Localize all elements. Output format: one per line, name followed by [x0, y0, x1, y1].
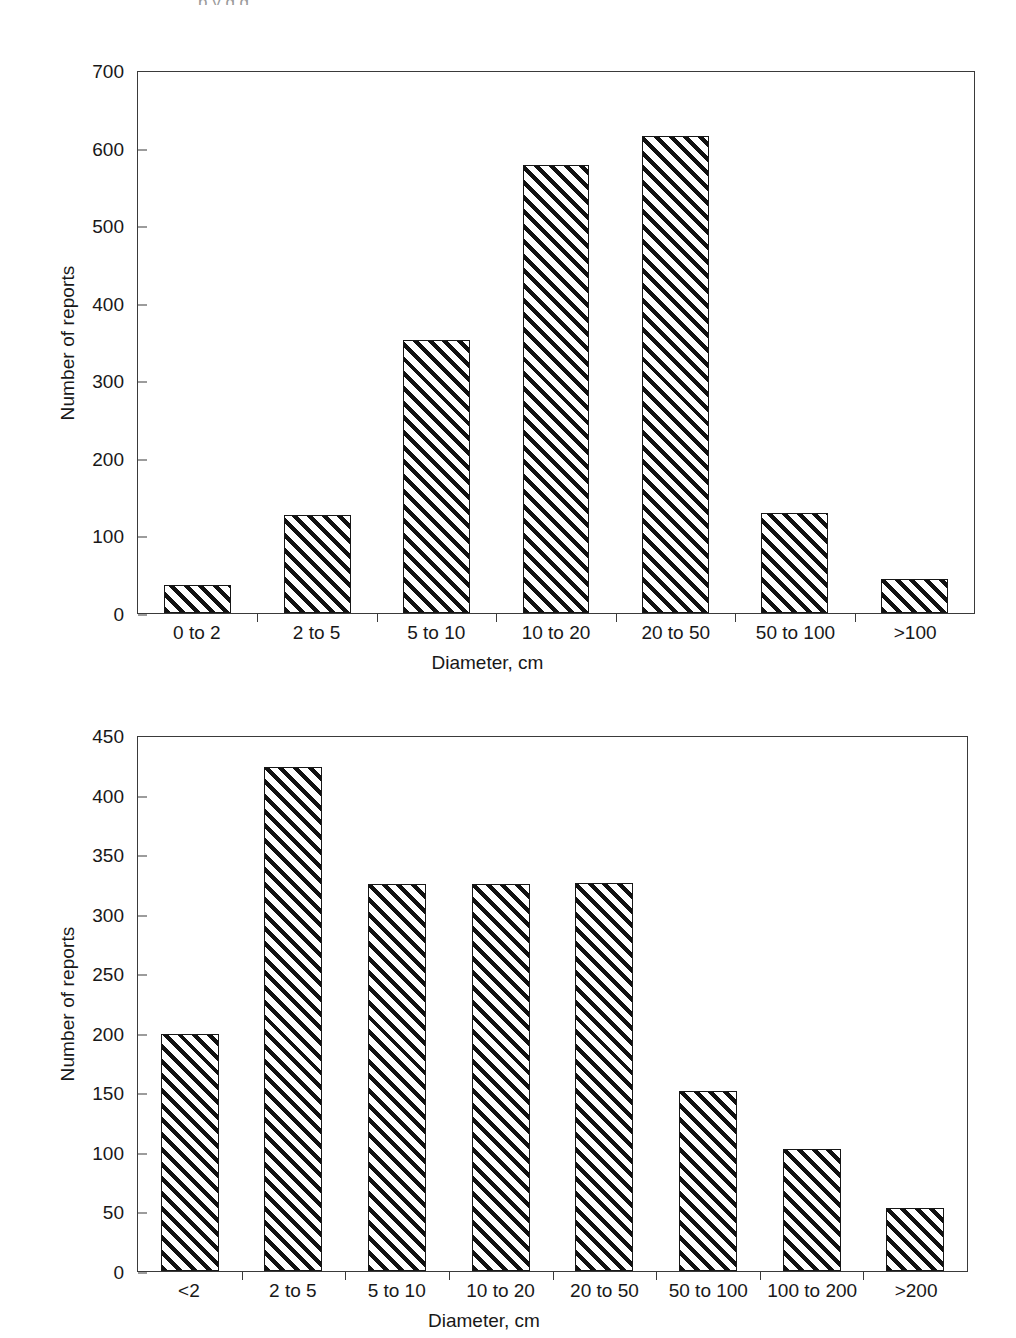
y-axis-tick-label: 50 [103, 1202, 138, 1224]
y-axis-tick-mark [138, 975, 147, 976]
bar-slot [553, 737, 657, 1271]
y-axis-tick-mark [138, 227, 147, 228]
bar-group-top [138, 72, 974, 613]
y-axis-tick-mark [138, 537, 147, 538]
y-axis-tick-label: 300 [92, 371, 138, 393]
bar [164, 585, 231, 613]
y-axis-tick-mark [138, 1153, 147, 1154]
plot-area-top: 0100200300400500600700 [137, 71, 975, 614]
bar [886, 1208, 944, 1271]
y-axis-tick-label: 150 [92, 1083, 138, 1105]
bar [642, 136, 709, 613]
y-axis-tick-mark [138, 856, 147, 857]
y-axis-tick-mark [138, 149, 147, 150]
x-axis-title-top: Diameter, cm [0, 652, 975, 674]
y-axis-tick-label: 100 [92, 526, 138, 548]
bar-slot [138, 72, 257, 613]
bar-slot [377, 72, 496, 613]
y-axis-tick-label: 300 [92, 905, 138, 927]
x-axis-tick-label: 10 to 20 [449, 1280, 553, 1302]
x-axis-tick-label: 10 to 20 [496, 622, 616, 644]
y-axis-tick-label: 0 [113, 1262, 138, 1284]
bar [783, 1149, 841, 1271]
bar-slot [496, 72, 615, 613]
bar-slot [138, 737, 242, 1271]
bar [368, 884, 426, 1271]
x-axis-tick-label: 50 to 100 [656, 1280, 760, 1302]
y-axis-tick-label: 100 [92, 1143, 138, 1165]
y-axis-tick-label: 200 [92, 449, 138, 471]
bar [679, 1091, 737, 1271]
chart-top: Number of reports 0100200300400500600700… [0, 0, 1016, 690]
bar [264, 767, 322, 1271]
x-axis-tick-label: 20 to 50 [553, 1280, 657, 1302]
y-axis-tick-mark [138, 382, 147, 383]
x-axis-tick-labels-bottom: <22 to 55 to 1010 to 2020 to 5050 to 100… [137, 1280, 968, 1302]
bar-slot [616, 72, 735, 613]
bar-slot [345, 737, 449, 1271]
x-axis-tick-label: 5 to 10 [376, 622, 496, 644]
y-axis-tick-mark [138, 1213, 147, 1214]
x-axis-tick-label: 100 to 200 [760, 1280, 864, 1302]
bar [523, 165, 590, 613]
bar-slot [863, 737, 967, 1271]
bar [472, 884, 530, 1271]
bar-group-bottom [138, 737, 967, 1271]
y-axis-tick-mark [138, 1094, 147, 1095]
bar [403, 340, 470, 613]
x-axis-tick-label: 50 to 100 [736, 622, 856, 644]
x-axis-tick-labels-top: 0 to 22 to 55 to 1010 to 2020 to 5050 to… [137, 622, 975, 644]
y-axis-tick-mark [138, 1273, 147, 1274]
y-axis-title-bottom: Number of reports [57, 927, 79, 1082]
y-axis-title-top: Number of reports [57, 266, 79, 421]
y-axis-tick-mark [138, 615, 147, 616]
bar [575, 883, 633, 1271]
y-axis-tick-label: 500 [92, 216, 138, 238]
y-axis-tick-mark [138, 915, 147, 916]
chart-bottom: Number of reports 0501001502002503003504… [0, 690, 1016, 1338]
x-axis-tick-label: 2 to 5 [257, 622, 377, 644]
y-axis-tick-mark [138, 1034, 147, 1035]
x-axis-tick-label: <2 [137, 1280, 241, 1302]
y-axis-tick-mark [138, 304, 147, 305]
y-axis-tick-label: 200 [92, 1024, 138, 1046]
x-axis-tick-label: >200 [864, 1280, 968, 1302]
y-axis-tick-label: 700 [92, 61, 138, 83]
bar-slot [257, 72, 376, 613]
bar-slot [855, 72, 974, 613]
x-axis-tick-label: 5 to 10 [345, 1280, 449, 1302]
bar-slot [656, 737, 760, 1271]
y-axis-tick-label: 600 [92, 139, 138, 161]
x-axis-tick-label: >100 [855, 622, 975, 644]
bar [284, 515, 351, 613]
bar-slot [760, 737, 864, 1271]
bar [881, 579, 948, 613]
y-axis-tick-mark [138, 459, 147, 460]
x-axis-tick-label: 20 to 50 [616, 622, 736, 644]
bar [161, 1034, 219, 1271]
figure-page: p y g g Number of reports 01002003004005… [0, 0, 1016, 1338]
x-axis-title-bottom: Diameter, cm [0, 1310, 968, 1332]
x-axis-tick-label: 0 to 2 [137, 622, 257, 644]
y-axis-tick-label: 250 [92, 964, 138, 986]
y-axis-tick-label: 0 [113, 604, 138, 626]
y-axis-tick-label: 350 [92, 845, 138, 867]
y-axis-tick-label: 450 [92, 726, 138, 748]
y-axis-tick-label: 400 [92, 786, 138, 808]
bar-slot [735, 72, 854, 613]
x-axis-tick-label: 2 to 5 [241, 1280, 345, 1302]
y-axis-tick-label: 400 [92, 294, 138, 316]
y-axis-tick-mark [138, 796, 147, 797]
bar [761, 513, 828, 613]
plot-area-bottom: 050100150200250300350400450 [137, 736, 968, 1272]
bar-slot [242, 737, 346, 1271]
bar-slot [449, 737, 553, 1271]
